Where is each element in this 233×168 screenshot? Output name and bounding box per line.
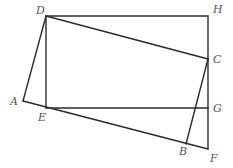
geometry-diagram: DHCAEGBF	[0, 0, 233, 168]
point-label-E: E	[37, 111, 46, 124]
segment-CB	[186, 59, 208, 144]
point-label-H: H	[212, 3, 223, 16]
point-label-F: F	[209, 152, 218, 165]
point-label-D: D	[35, 4, 45, 17]
point-label-G: G	[213, 102, 222, 115]
point-label-A: A	[9, 95, 18, 108]
point-label-C: C	[213, 53, 222, 66]
segment-AD	[23, 16, 46, 101]
point-label-B: B	[178, 145, 187, 158]
diagram-svg: DHCAEGBF	[0, 0, 233, 168]
segment-DC	[46, 16, 208, 59]
